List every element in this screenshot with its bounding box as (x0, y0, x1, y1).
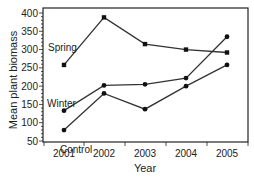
x-tick-label: 2005 (216, 148, 239, 159)
y-axis: 50100150200250300350400 (21, 8, 43, 147)
circle-marker (143, 107, 148, 112)
y-tick-label: 200 (21, 81, 38, 92)
y-tick-label: 150 (21, 99, 38, 110)
circle-marker (62, 128, 67, 133)
series-label-control: Control (60, 144, 92, 155)
circle-marker (102, 91, 107, 96)
series-line-winter (64, 37, 227, 111)
circle-marker (184, 76, 189, 81)
square-marker (143, 42, 147, 46)
y-tick-label: 300 (21, 44, 38, 55)
x-tick-label: 2003 (134, 148, 157, 159)
circle-marker (102, 83, 107, 88)
square-marker (62, 63, 66, 67)
series-line-spring (64, 17, 227, 65)
line-chart: 50100150200250300350400 2001200220032004… (0, 0, 254, 178)
circle-marker (225, 63, 230, 68)
x-axis-title: Year (134, 162, 157, 174)
y-axis-title: Mean plant biomass (7, 30, 19, 129)
series-line-control (64, 65, 227, 130)
circle-marker (225, 34, 230, 39)
y-tick-label: 400 (21, 8, 38, 19)
circle-marker (184, 84, 189, 89)
square-marker (102, 15, 106, 19)
y-tick-label: 250 (21, 62, 38, 73)
y-tick-label: 50 (27, 136, 39, 147)
y-tick-label: 350 (21, 26, 38, 37)
series-label-winter: Winter (47, 98, 77, 109)
x-tick-label: 2002 (93, 148, 116, 159)
x-tick-label: 2004 (175, 148, 198, 159)
series-label-spring: Spring (48, 42, 77, 53)
y-tick-label: 100 (21, 117, 38, 128)
circle-marker (143, 82, 148, 87)
square-marker (225, 50, 229, 54)
square-marker (184, 47, 188, 51)
series-lines (62, 15, 230, 132)
